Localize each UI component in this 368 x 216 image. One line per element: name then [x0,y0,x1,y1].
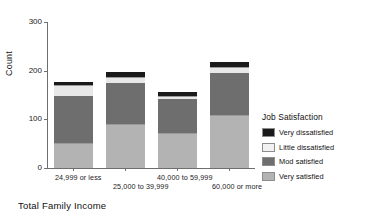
x-category-label: 60,000 or more [212,183,262,191]
x-category-label: 25,000 to 39,999 [113,183,169,191]
plot-area: 0100200300 [47,22,255,168]
legend-label: Little dissatisfied [279,143,334,152]
y-axis-title: Count [4,51,14,76]
bar-4[interactable] [210,62,249,168]
bar-2[interactable] [106,72,145,168]
x-tick-mark [125,168,126,171]
bar-segment[interactable] [106,77,145,84]
legend-swatch-icon [262,128,275,137]
legend-swatch-icon [262,157,275,166]
bar-segment[interactable] [106,124,145,168]
bar-3[interactable] [158,92,197,168]
x-tick-mark [229,168,230,171]
y-tick-mark [44,119,47,120]
bar-1[interactable] [54,82,93,168]
y-tick-label: 300 [29,18,42,26]
bar-segment[interactable] [106,83,145,124]
x-tick-mark [177,168,178,171]
y-tick-mark [44,22,47,23]
legend: Job Satisfaction Very dissatisfiedLittle… [262,112,366,185]
y-axis-line [47,22,48,168]
bar-segment[interactable] [54,85,93,96]
bar-segment[interactable] [54,143,93,168]
x-category-label: 24,999 or less [55,174,102,182]
bar-segment[interactable] [158,133,197,168]
x-category-label: 40,000 to 59,999 [157,174,213,182]
legend-item[interactable]: Little dissatisfied [262,142,366,153]
legend-label: Very dissatisfied [279,128,333,137]
y-tick-mark [44,71,47,72]
legend-label: Very satisfied [279,172,324,181]
bar-segment[interactable] [158,99,197,133]
legend-title: Job Satisfaction [262,112,366,122]
legend-item[interactable]: Very dissatisfied [262,127,366,138]
legend-item[interactable]: Mod satisfied [262,156,366,167]
bar-segment[interactable] [54,96,93,143]
legend-swatch-icon [262,172,275,181]
chart-canvas: Count Total Family Income 0100200300 24,… [0,0,368,216]
legend-label: Mod satisfied [279,157,323,166]
y-tick-label: 100 [29,115,42,123]
y-tick-label: 200 [29,67,42,75]
legend-item[interactable]: Very satisfied [262,171,366,182]
x-axis-line [47,168,255,169]
y-tick-mark [44,168,47,169]
legend-swatch-icon [262,143,275,152]
x-axis-title: Total Family Income [18,200,106,211]
y-tick-label: 0 [38,164,42,172]
bar-segment[interactable] [210,73,249,115]
x-tick-mark [73,168,74,171]
bar-segment[interactable] [210,115,249,168]
